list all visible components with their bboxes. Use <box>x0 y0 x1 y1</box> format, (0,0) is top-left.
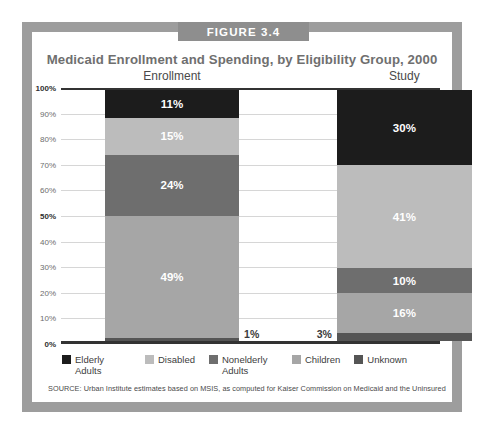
bar-segment-nonelderly-adults[interactable]: 10% <box>337 268 472 293</box>
source-note: SOURCE: Urban Institute estimates based … <box>48 384 448 393</box>
legend-item-nonelderly-adults[interactable]: Nonelderly Adults <box>209 354 278 376</box>
legend-label: Disabled <box>158 354 195 365</box>
y-axis-tick-label: 20% <box>40 288 56 297</box>
y-axis-tick-label: 0% <box>44 340 56 349</box>
legend-label: Unknown <box>367 354 407 365</box>
chart-legend: Elderly AdultsDisabledNonelderly AdultsC… <box>62 354 447 376</box>
axis-line-bottom <box>61 341 440 344</box>
bar-segment-unknown[interactable]: 3% <box>337 333 472 341</box>
column-header-study: Study <box>337 69 472 83</box>
legend-label: Children <box>305 354 340 365</box>
legend-item-elderly-adults[interactable]: Elderly Adults <box>62 354 131 376</box>
plot-area: 100%90%80%70%60%50%40%30%20%10%0% Enroll… <box>61 88 440 344</box>
stacked-bar-enrollment[interactable]: 11%15%24%49%1% <box>105 90 239 341</box>
bar-segment-value: 49% <box>161 271 184 283</box>
bar-segment-children[interactable]: 49% <box>105 216 239 339</box>
legend-swatch-icon <box>62 355 71 364</box>
stacked-bar-study[interactable]: 30%41%10%16%3% <box>337 90 472 341</box>
y-axis-tick-label: 60% <box>40 186 56 195</box>
y-axis-tick-label: 30% <box>40 263 56 272</box>
y-axis-tick-label: 40% <box>40 237 56 246</box>
bar-segment-nonelderly-adults[interactable]: 24% <box>105 155 239 215</box>
chart-title: Medicaid Enrollment and Spending, by Eli… <box>32 52 452 67</box>
figure-card: FIGURE 3.4 Medicaid Enrollment and Spend… <box>32 32 452 402</box>
column-header-enrollment: Enrollment <box>105 69 239 83</box>
bar-segment-unknown[interactable]: 1% <box>105 338 239 341</box>
legend-label: Elderly Adults <box>75 354 131 376</box>
bar-segment-value: 11% <box>161 98 183 110</box>
y-axis-tick-label: 70% <box>40 160 56 169</box>
y-axis-tick-label: 50% <box>40 212 56 221</box>
legend-swatch-icon <box>292 355 301 364</box>
gridline: 0% <box>61 344 440 345</box>
y-axis-tick-label: 80% <box>40 135 56 144</box>
legend-swatch-icon <box>354 355 363 364</box>
bar-segment-value: 15% <box>161 130 184 142</box>
bar-segment-disabled[interactable]: 41% <box>337 165 472 268</box>
bar-segment-value: 10% <box>393 275 416 287</box>
legend-swatch-icon <box>209 355 218 364</box>
legend-item-unknown[interactable]: Unknown <box>354 354 407 365</box>
bar-segment-disabled[interactable]: 15% <box>105 118 239 156</box>
bar-segment-elderly-adults[interactable]: 30% <box>337 90 472 165</box>
legend-label: Nonelderly Adults <box>222 354 278 376</box>
figure-frame: FIGURE 3.4 Medicaid Enrollment and Spend… <box>22 22 462 412</box>
bar-segment-children[interactable]: 16% <box>337 293 472 333</box>
bar-segment-value: 16% <box>393 307 416 319</box>
legend-item-children[interactable]: Children <box>292 354 340 365</box>
y-axis-tick-label: 10% <box>40 314 56 323</box>
bar-segment-value: 24% <box>161 179 184 191</box>
legend-swatch-icon <box>145 355 154 364</box>
y-axis-tick-label: 90% <box>40 109 56 118</box>
figure-number-banner: FIGURE 3.4 <box>178 22 309 41</box>
legend-item-disabled[interactable]: Disabled <box>145 354 195 365</box>
y-axis-tick-label: 100% <box>36 84 56 93</box>
bar-segment-value: 41% <box>393 211 416 223</box>
bar-segment-value: 1% <box>244 328 259 340</box>
bar-segment-elderly-adults[interactable]: 11% <box>105 90 239 118</box>
bar-segment-value: 3% <box>317 328 332 340</box>
bar-segment-value: 30% <box>393 122 416 134</box>
